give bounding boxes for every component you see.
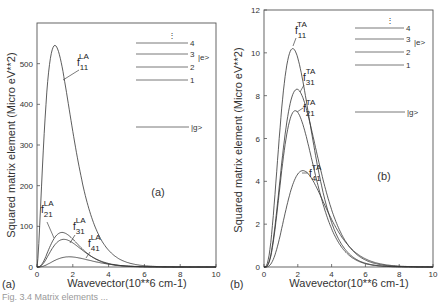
x-tick-label: 0 [262,270,267,279]
curve-label-11: f11LA [77,52,90,72]
leader-line [63,70,79,80]
level-ellipsis: ⋮ [168,31,176,40]
curve-label-21: f21LA [41,199,54,219]
x-tick-label: 0 [35,270,40,279]
y-tick-label: 100 [20,222,34,231]
leader-line [300,85,304,92]
curve-annotations-b: f11TAf31TAf21TAf41TA [293,20,322,183]
y-tick-label: 12 [251,6,260,15]
ground-state-label: |g> [407,108,419,117]
curve-label-41: f41LA [88,233,101,253]
leader-line [70,235,75,243]
panel-label-a: (a) [151,186,164,198]
leader-line [293,38,296,46]
energy-level-label: 1 [190,76,195,85]
level-ellipsis: ⋮ [386,16,394,25]
energy-level-label: 2 [406,48,411,57]
energy-level-inset-b: ⋮4321|e>|g> [355,16,426,117]
curve-f11-ta [264,49,433,267]
y-axis-label-b: Squared matrix element (Micro eV**2) [232,47,244,232]
curve-annotations-a: f11LAf21LAf31LAf41LA [41,52,101,258]
figure-canvas: 0100200300400500 0246810 ⋮4321|e>|g> f11… [0,0,448,302]
y-tick-label: 6 [256,135,261,144]
y-tick-label: 400 [20,100,34,109]
curve-label-21: f21TA [303,98,316,118]
energy-level-label: 2 [190,63,195,72]
curve-label-31: f31TA [303,67,316,87]
ground-state-label: |g> [191,123,203,132]
energy-level-label: 4 [406,24,411,33]
curve-label-31: f31LA [73,216,86,236]
y-tick-label: 8 [256,92,261,101]
curve-label-11: f11TA [295,20,307,40]
energy-level-label: 1 [406,61,411,70]
y-tick-label: 300 [20,141,34,150]
y-tick-label: 10 [251,49,260,58]
excited-state-label: |e> [414,38,426,47]
x-axis-label-b: Wavevector(10**6 cm-1) [289,277,408,289]
y-tick-label: 200 [20,182,34,191]
y-tick-label: 2 [256,220,261,229]
chart-panel-b: 024681012 0246810 ⋮4321|e>|g> f11TAf31TA… [230,6,438,290]
x-tick-label: 10 [212,270,221,279]
curve-f21-ta [264,111,433,267]
y-tick-label: 4 [256,177,261,186]
y-tick-label: 500 [20,60,34,69]
leader-line [47,222,54,238]
energy-level-label: 3 [406,35,411,44]
curve-f31-la [37,239,216,267]
x-tick-label: 10 [429,270,438,279]
corner-label-b: (b) [230,278,243,290]
excited-state-label: |e> [198,53,210,62]
energy-level-inset-a: ⋮4321|e>|g> [136,31,210,132]
curves-b [264,49,433,267]
y-tick-label: 0 [29,263,34,272]
corner-label-a: (a) [2,278,15,290]
plot-frame-a [37,23,216,267]
curve-f41-ta [264,171,433,267]
panel-label-b: (b) [377,170,390,182]
energy-level-label: 4 [190,39,195,48]
curve-label-41: f41TA [309,163,322,183]
chart-panel-a: 0100200300400500 0246810 ⋮4321|e>|g> f11… [2,23,221,290]
energy-level-label: 3 [190,50,195,59]
x-axis-label-a: Wavevector(10**6 cm-1) [67,277,186,289]
y-axis-ticks-b: 024681012 [251,6,267,272]
figure-caption-fragment: Fig. 3.4 Matrix elements ... [2,292,108,302]
y-tick-label: 0 [256,263,261,272]
y-axis-label-a: Squared matrix element (Micro eV**2) [5,52,17,237]
